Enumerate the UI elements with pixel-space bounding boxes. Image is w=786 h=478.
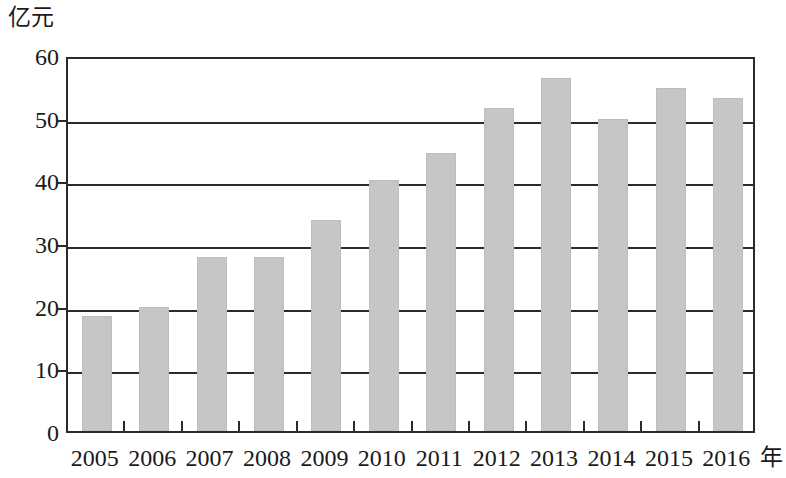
x-axis-tick-label: 2007 [186, 446, 234, 470]
x-axis-tick-label: 2014 [587, 446, 635, 470]
x-axis-tick-marks [66, 421, 755, 433]
x-axis-unit-label: 年 [760, 446, 783, 469]
y-axis-tick-mark [58, 245, 66, 247]
x-axis-tick-mark [238, 421, 240, 432]
bar [484, 108, 514, 431]
x-axis-tick-mark [525, 421, 527, 432]
y-axis-tick-mark [58, 182, 66, 184]
x-axis-tick-mark [123, 421, 125, 432]
x-axis-tick-label: 2006 [128, 446, 176, 470]
bar [656, 88, 686, 431]
x-axis-tick-label: 2010 [358, 446, 406, 470]
x-axis-tick-mark [181, 421, 183, 432]
bars-layer [68, 59, 753, 431]
x-axis-tick-mark [353, 421, 355, 432]
x-axis-tick-labels: 2005200620072008200920102011201220132014… [66, 446, 755, 478]
x-axis-tick-label: 2012 [473, 446, 521, 470]
x-axis-tick-label: 2015 [645, 446, 693, 470]
bar [139, 307, 169, 431]
y-axis-tick-mark [58, 308, 66, 310]
x-axis-tick-label: 2016 [702, 446, 750, 470]
x-axis-tick-mark [296, 421, 298, 432]
y-axis-tick-label: 0 [8, 421, 66, 445]
x-axis-tick-label: 2005 [71, 446, 119, 470]
y-axis-tick-labels: 0102030405060 [0, 0, 66, 478]
bar [426, 153, 456, 431]
x-axis-tick-label: 2011 [416, 446, 463, 470]
bar [254, 257, 284, 431]
x-axis-tick-mark [583, 421, 585, 432]
x-axis-tick-mark [411, 421, 413, 432]
y-axis-tick-label: 60 [8, 45, 66, 69]
bar [713, 98, 743, 431]
plot-area [66, 57, 755, 433]
x-axis-tick-label: 2008 [243, 446, 291, 470]
x-axis-tick-mark [698, 421, 700, 432]
x-axis-tick-label: 2013 [530, 446, 578, 470]
x-axis-tick-label: 2009 [300, 446, 348, 470]
bar [197, 257, 227, 431]
bar [369, 180, 399, 431]
bar [541, 78, 571, 431]
x-axis-tick-mark [640, 421, 642, 432]
bar [598, 119, 628, 431]
y-axis-tick-mark [58, 370, 66, 372]
x-axis-tick-mark [468, 421, 470, 432]
bar [82, 316, 112, 431]
y-axis-tick-mark [58, 120, 66, 122]
bar-chart: 亿元 0102030405060 20052006200720082009201… [0, 0, 786, 478]
bar [311, 220, 341, 431]
